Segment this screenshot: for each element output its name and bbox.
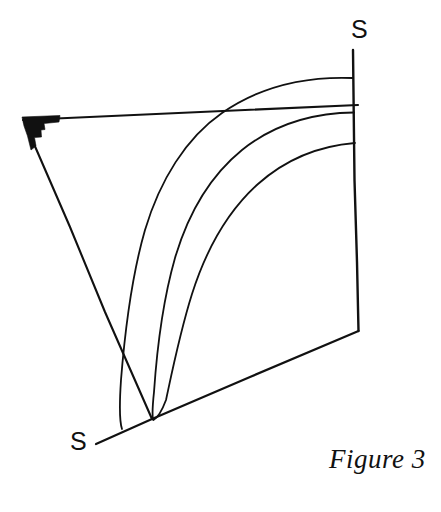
arc-inner: [154, 143, 356, 420]
left-edge-line: [24, 121, 152, 419]
figure-caption: Figure 3: [329, 444, 426, 475]
right-angle-marker: [22, 116, 60, 151]
bottom-axis-line: [96, 331, 359, 444]
axis-label-s-bottom: S: [70, 429, 87, 454]
arc-middle: [152, 113, 354, 420]
arc-group: [120, 78, 355, 429]
figure-drawing: [0, 0, 441, 512]
vertical-axis-line: [353, 50, 359, 331]
figure-canvas: S S Figure 3: [0, 0, 441, 512]
angle-wedge-icon: [22, 116, 60, 151]
frame-outline: [23, 50, 359, 444]
axis-label-s-top: S: [351, 17, 368, 42]
